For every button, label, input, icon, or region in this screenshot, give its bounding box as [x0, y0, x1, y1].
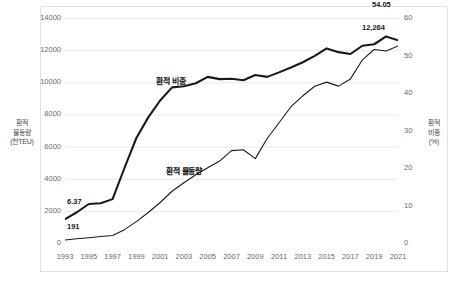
y-axis-left-tick-label: 4000 [27, 174, 61, 183]
volume-end-value-label: 12,264 [362, 23, 385, 32]
series-label-volume: 환적 물동량 [166, 165, 202, 176]
right-axis-title-line-3: (%) [414, 137, 454, 147]
y-axis-left-tick-label: 0 [27, 238, 61, 247]
volume-start-value-label: 191 [67, 222, 80, 231]
y-axis-right-tick-label: 60 [404, 13, 434, 22]
share-start-value-label: 6.37 [67, 197, 82, 206]
left-axis-title-line-1: 환적 [2, 118, 42, 128]
y-axis-left-tick-label: 6000 [27, 142, 61, 151]
y-axis-left-tick-label: 10000 [27, 77, 61, 86]
y-axis-right-tick-label: 10 [404, 201, 434, 210]
y-axis-right-tick-label: 0 [404, 238, 434, 247]
y-axis-left-tick-label: 14000 [27, 13, 61, 22]
y-axis-left-tick-label: 12000 [27, 45, 61, 54]
share-end-value-label: 54.05 [372, 0, 391, 9]
y-axis-right-tick-label: 50 [404, 51, 434, 60]
y-axis-right-tick-label: 20 [404, 163, 434, 172]
series-line-1 [65, 36, 398, 219]
y-axis-left-tick-label: 8000 [27, 109, 61, 118]
y-axis-right-tick-label: 40 [404, 88, 434, 97]
y-axis-left-tick-label: 2000 [27, 206, 61, 215]
y-axis-right-tick-label: 30 [404, 126, 434, 135]
left-axis-title-line-2: 물동량 [2, 128, 42, 138]
chart-figure: 환적 물동량 (천TEU) 환적 비중 (%) 0200040006000800… [0, 0, 455, 284]
series-label-share: 환적 비중 [156, 75, 185, 86]
plot-area: 6.3754.0519112,264환적 비중환적 물동량 [65, 18, 398, 243]
series-line-2 [65, 46, 398, 240]
x-axis-tick-label: 2021 [383, 252, 413, 261]
series-canvas [65, 18, 398, 243]
